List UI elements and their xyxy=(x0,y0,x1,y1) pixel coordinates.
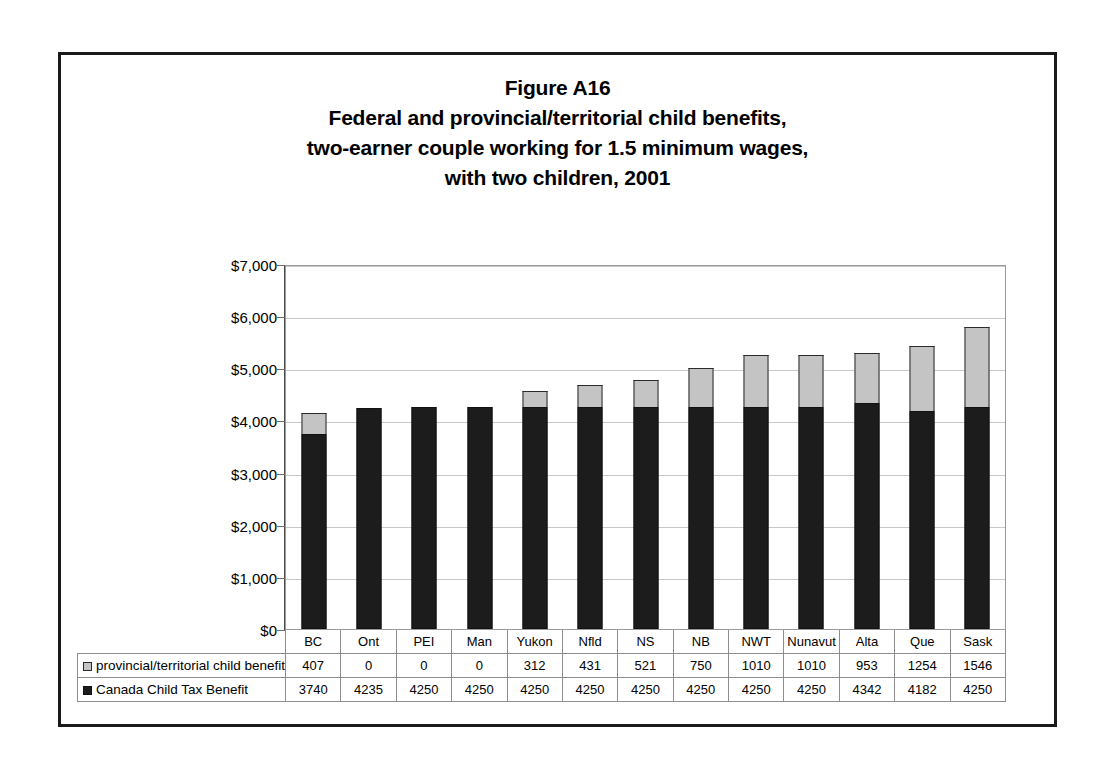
title-line-2: Federal and provincial/territorial child… xyxy=(61,103,1054,133)
table-cell: 4250 xyxy=(673,678,728,702)
table-cell: 1546 xyxy=(950,654,1006,678)
y-tick-mark xyxy=(277,369,285,370)
data-table: BCOntPEIManYukonNfldNSNBNWTNunavutAltaQu… xyxy=(77,630,1006,702)
bar-slot xyxy=(452,266,507,629)
bar-segment-provincial xyxy=(578,385,603,407)
table-cell: 953 xyxy=(839,654,894,678)
bar-stack xyxy=(799,355,824,629)
category-header: Que xyxy=(895,630,950,654)
bar-slot xyxy=(618,266,673,629)
legend-swatch-icon xyxy=(83,662,92,671)
y-tick-label: $4,000 xyxy=(211,414,277,429)
y-tick-mark xyxy=(277,578,285,579)
bar-slot xyxy=(286,266,341,629)
y-tick-label: $2,000 xyxy=(211,518,277,533)
bar-segment-federal xyxy=(965,407,990,629)
bar-segment-federal xyxy=(854,403,879,629)
bar-segment-federal xyxy=(522,407,547,629)
bar-slot xyxy=(673,266,728,629)
table-cell: 4250 xyxy=(729,678,784,702)
y-tick-label: $1,000 xyxy=(211,570,277,585)
table-cell: 4235 xyxy=(341,678,396,702)
bar-segment-provincial xyxy=(301,413,326,434)
bar-segment-federal xyxy=(578,407,603,629)
bar-stack xyxy=(688,368,713,629)
table-cell: 0 xyxy=(452,654,507,678)
title-line-4: with two children, 2001 xyxy=(61,163,1054,193)
category-header: NWT xyxy=(729,630,784,654)
bar-segment-provincial xyxy=(799,355,824,408)
bar-slot xyxy=(729,266,784,629)
category-header: Man xyxy=(452,630,507,654)
bar-segment-federal xyxy=(356,408,381,629)
table-cell: 1254 xyxy=(895,654,950,678)
bar-slot xyxy=(894,266,949,629)
table-cell: 4182 xyxy=(895,678,950,702)
category-header: PEI xyxy=(396,630,451,654)
category-header: Ont xyxy=(341,630,396,654)
table-cell: 312 xyxy=(507,654,562,678)
bar-segment-federal xyxy=(633,407,658,629)
bar-stack xyxy=(965,327,990,629)
category-header: Alta xyxy=(839,630,894,654)
bar-slot xyxy=(839,266,894,629)
table-row: Canada Child Tax Benefit3740423542504250… xyxy=(78,678,1006,702)
table-cell: 0 xyxy=(341,654,396,678)
bar-stack xyxy=(854,353,879,629)
y-tick-mark xyxy=(277,474,285,475)
y-tick-label: $3,000 xyxy=(211,466,277,481)
plot-area xyxy=(285,265,1006,630)
bar-slot xyxy=(784,266,839,629)
y-tick-mark xyxy=(277,526,285,527)
legend-swatch-icon xyxy=(83,686,92,695)
bar-segment-provincial xyxy=(910,346,935,411)
bar-stack xyxy=(301,413,326,629)
bar-slot xyxy=(397,266,452,629)
bar-segment-provincial xyxy=(854,353,879,403)
table-cell: 1010 xyxy=(729,654,784,678)
bar-segment-federal xyxy=(910,411,935,629)
y-tick-label: $5,000 xyxy=(211,362,277,377)
bar-stack xyxy=(356,408,381,629)
y-tick-mark xyxy=(277,317,285,318)
table-cell: 1010 xyxy=(784,654,839,678)
bar-segment-federal xyxy=(744,407,769,629)
category-header: Sask xyxy=(950,630,1006,654)
legend-provincial-row: provincial/territorial child benefits xyxy=(78,654,286,678)
y-tick-label: $7,000 xyxy=(211,258,277,273)
bar-stack xyxy=(467,407,492,629)
bar-segment-federal xyxy=(688,407,713,629)
y-tick-label: $6,000 xyxy=(211,310,277,325)
table-cell: 4250 xyxy=(618,678,673,702)
bar-segment-federal xyxy=(799,407,824,629)
table-cell: 750 xyxy=(673,654,728,678)
table-cell: 4250 xyxy=(396,678,451,702)
table-header-row: BCOntPEIManYukonNfldNSNBNWTNunavutAltaQu… xyxy=(78,630,1006,654)
table-cell: 4342 xyxy=(839,678,894,702)
bar-segment-federal xyxy=(412,407,437,629)
category-header: Nunavut xyxy=(784,630,839,654)
category-header: Nfld xyxy=(562,630,617,654)
bar-stack xyxy=(633,380,658,629)
category-header: BC xyxy=(286,630,341,654)
table-row: provincial/territorial child benefits407… xyxy=(78,654,1006,678)
bar-segment-provincial xyxy=(965,327,990,408)
bar-slot xyxy=(507,266,562,629)
bar-slot xyxy=(341,266,396,629)
bar-stack xyxy=(522,391,547,629)
chart-title: Figure A16 Federal and provincial/territ… xyxy=(61,73,1054,193)
bar-slot xyxy=(950,266,1005,629)
legend-federal-row: Canada Child Tax Benefit xyxy=(78,678,286,702)
title-line-1: Figure A16 xyxy=(61,73,1054,103)
bar-stack xyxy=(412,407,437,629)
bar-slot xyxy=(563,266,618,629)
bar-stack xyxy=(578,385,603,629)
y-tick-mark xyxy=(277,265,285,266)
table-cell: 3740 xyxy=(286,678,341,702)
table-cell: 0 xyxy=(396,654,451,678)
bar-segment-federal xyxy=(467,407,492,629)
table-corner xyxy=(78,630,286,654)
table-cell: 4250 xyxy=(507,678,562,702)
bar-stack xyxy=(744,355,769,629)
title-line-3: two-earner couple working for 1.5 minimu… xyxy=(61,133,1054,163)
